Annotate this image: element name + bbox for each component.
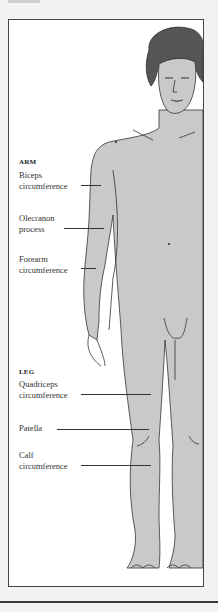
leader-line-biceps [81, 185, 101, 186]
label-forearm-circumference: Forearm circumference [19, 254, 68, 276]
leader-line-patella [57, 429, 149, 430]
label-patella: Patella [19, 423, 42, 434]
leader-line-olecranon [64, 228, 104, 229]
leader-line-quadriceps [81, 394, 151, 395]
cropped-caption-fragment [8, 0, 40, 3]
section-title-leg: LEG [19, 368, 34, 376]
head [146, 27, 203, 113]
face [158, 58, 195, 113]
human-body-figure [9, 20, 203, 586]
label-quadriceps-circumference: Quadriceps circumference [19, 379, 68, 401]
label-olecranon-process: Olecranon process [19, 213, 54, 235]
figure-panel: ARM Biceps circumference Olecranon proce… [8, 19, 204, 587]
bottom-divider [0, 601, 218, 603]
section-title-arm: ARM [19, 158, 36, 166]
body-silhouette [84, 110, 203, 568]
label-biceps-circumference: Biceps circumference [19, 170, 68, 192]
label-calf-circumference: Calf circumference [19, 450, 68, 472]
leader-line-forearm [81, 268, 96, 269]
leader-line-calf [81, 465, 151, 466]
